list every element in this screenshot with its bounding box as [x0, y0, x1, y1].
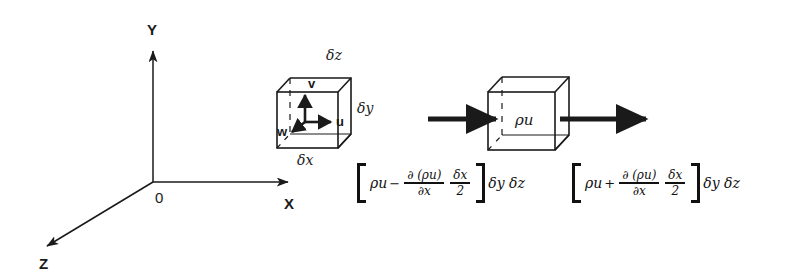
flux-cube-edge-br: [555, 135, 569, 150]
flux-cube-center-label: ρu: [515, 113, 533, 128]
equation-right-fraction-derivative: ∂ (ρu) ∂x: [619, 169, 659, 197]
equation-left-tail: δy δz: [485, 176, 525, 190]
origin-label: 0: [155, 190, 163, 205]
equation-left-operator: −: [388, 177, 401, 190]
equation-right-frac1-numerator: ∂ (ρu): [619, 169, 659, 182]
figure-canvas: Y X Z 0 v u w δz δy δx ρu ρu − ∂ (ρu) ∂x…: [0, 0, 786, 280]
edge-label-delta-z: δz: [326, 48, 342, 62]
equation-right-fraction-half-step: δx 2: [665, 169, 685, 197]
equation-left-fraction-derivative: ∂ (ρu) ∂x: [404, 169, 444, 197]
z-axis-label: Z: [39, 256, 48, 271]
edge-label-delta-x: δx: [297, 153, 313, 167]
equation-left-frac1-numerator: ∂ (ρu): [404, 169, 444, 182]
equation-right-base-term: ρu: [584, 176, 603, 190]
y-axis-label: Y: [147, 22, 157, 37]
coordinate-axes: [47, 51, 288, 246]
velocity-label-v: v: [308, 77, 315, 90]
equation-right-frac2-denominator: 2: [669, 184, 683, 197]
equation-right-operator: +: [603, 177, 616, 190]
velocity-label-w: w: [277, 125, 287, 138]
equation-left-fraction-half-step: δx 2: [450, 169, 470, 197]
equation-left-frac1-denominator: ∂x: [415, 184, 434, 197]
equation-left-close-bracket: [476, 163, 485, 203]
equation-left-open-bracket: [357, 163, 366, 203]
equation-right: ρu + ∂ (ρu) ∂x δx 2 δy δz: [572, 163, 740, 203]
equation-left: ρu − ∂ (ρu) ∂x δx 2 δy δz: [357, 163, 525, 203]
equation-right-body: ρu + ∂ (ρu) ∂x δx 2: [581, 169, 691, 197]
edge-label-delta-y: δy: [357, 101, 373, 115]
flux-cube-hidden-edge-diagonal: [488, 135, 502, 150]
velocity-label-u: u: [336, 115, 344, 128]
velocity-vector-w: [292, 122, 305, 132]
equation-right-tail: δy δz: [700, 176, 740, 190]
figure-vector-graphics: [0, 0, 786, 280]
x-axis-label: X: [284, 196, 294, 211]
equation-right-frac2-numerator: δx: [665, 169, 685, 182]
equation-right-frac1-denominator: ∂x: [630, 184, 649, 197]
z-axis-line: [47, 182, 153, 246]
equation-right-close-bracket: [691, 163, 700, 203]
equation-left-base-term: ρu: [369, 176, 388, 190]
equation-left-frac2-numerator: δx: [450, 169, 470, 182]
velocity-vectors: [292, 95, 331, 132]
flux-cube-edge-tl: [488, 77, 502, 92]
flux-cube-edge-tr: [555, 77, 569, 92]
velocity-cube-edge-tr: [338, 78, 351, 92]
equation-left-body: ρu − ∂ (ρu) ∂x δx 2: [366, 169, 476, 197]
equation-left-frac2-denominator: 2: [454, 184, 468, 197]
velocity-cube-edge-tl: [277, 78, 290, 92]
velocity-cube-front-face: [277, 92, 338, 148]
velocity-cube-edge-br: [338, 134, 351, 148]
equation-right-open-bracket: [572, 163, 581, 203]
